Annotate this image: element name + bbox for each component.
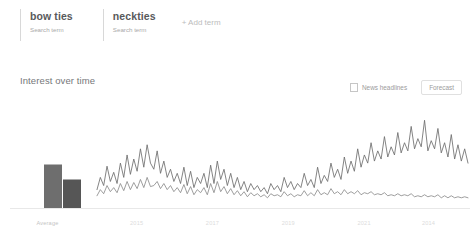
news-headlines-checkbox[interactable] [350,83,359,92]
search-term-title: neckties [113,10,156,23]
average-bar-chart[interactable]: Average [0,100,95,242]
charts-area: Average 20152017201920212014 [0,100,474,242]
news-headlines-toggle[interactable]: News headlines [350,83,408,92]
search-term-chip-neckties[interactable]: neckties Search term [103,9,156,43]
average-axis-label: Average [0,220,95,226]
x-axis-tick-label: 2017 [206,220,219,226]
chart-controls: News headlines Forecast [350,80,463,95]
search-term-text: bow ties Search term [30,9,73,43]
search-term-title: bow ties [30,10,73,23]
search-term-chip-bow-ties[interactable]: bow ties Search term [20,9,73,43]
search-term-text: neckties Search term [113,9,156,43]
section-title: Interest over time [20,75,95,86]
line-series-bow-ties [97,120,468,193]
line-chart-svg [95,100,474,222]
forecast-button[interactable]: Forecast [421,80,462,95]
search-term-divider [20,9,21,41]
add-term-button[interactable]: + Add term [182,18,221,27]
search-term-subtitle: Search term [30,25,73,35]
line-series-neckties [97,177,468,197]
interest-over-time-section-header: Interest over time News headlines Foreca… [0,72,474,98]
search-term-subtitle: Search term [113,25,156,35]
x-axis-tick-label: 2021 [357,220,370,226]
x-axis-tick-label: 2014 [422,220,435,226]
average-bar [44,165,62,209]
average-bar [63,180,81,209]
average-bar-chart-svg [0,100,95,222]
search-term-divider [103,9,104,41]
x-axis-tick-label: 2019 [282,220,295,226]
search-terms-bar: bow ties Search term neckties Search ter… [0,0,474,52]
news-headlines-label: News headlines [362,84,407,91]
interest-over-time-line-chart[interactable]: 20152017201920212014 [95,100,474,242]
x-axis-tick-label: 2015 [130,220,143,226]
